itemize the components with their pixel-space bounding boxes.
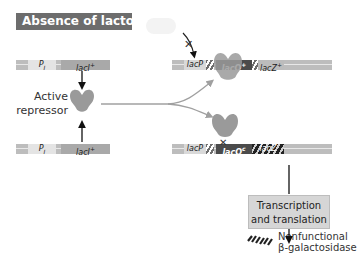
blocked-x-icon: ✕ [184, 38, 193, 51]
blocked-arrow-icon: ✕ [183, 33, 194, 55]
cannot-bind-x-icon: ✕ [219, 137, 227, 148]
bound-repressor-icon [214, 53, 242, 80]
repressor-icon [70, 90, 94, 112]
nonfunctional-protein-icon [248, 236, 272, 245]
free-repressor-icon: ✕ [212, 114, 238, 148]
branch-arrows [101, 82, 211, 116]
